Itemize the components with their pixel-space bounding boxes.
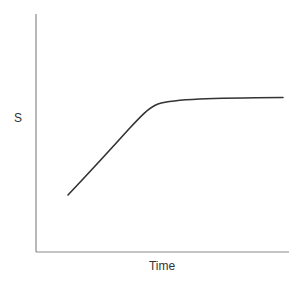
data-line-s	[68, 98, 283, 196]
line-chart	[0, 0, 304, 282]
y-axis-label: S	[14, 111, 22, 125]
x-axis-label: Time	[0, 259, 304, 273]
